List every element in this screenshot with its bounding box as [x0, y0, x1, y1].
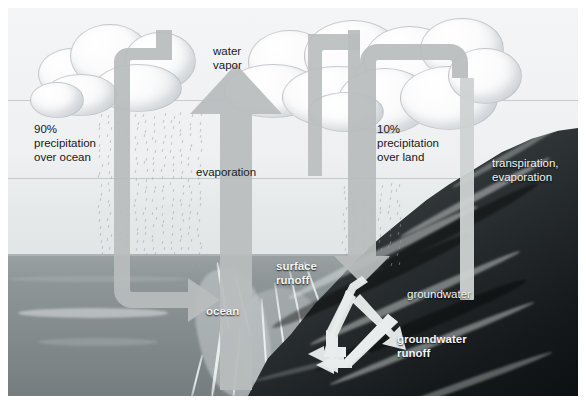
flow-arrow-layer	[8, 8, 578, 396]
label-evaporation: evaporation	[196, 165, 256, 179]
label-ocean: ocean	[206, 304, 239, 318]
diagram-canvas: water vapor 90% precipitation over ocean…	[8, 8, 578, 396]
label-precipitation-over-land: 10% precipitation over land	[377, 122, 439, 164]
label-groundwater-runoff: groundwater runoff	[397, 332, 467, 360]
water-cycle-diagram: water vapor 90% precipitation over ocean…	[0, 0, 586, 412]
label-precipitation-over-ocean: 90% precipitation over ocean	[34, 122, 96, 164]
evaporation-arrow	[190, 64, 282, 390]
label-groundwater: groundwater	[407, 287, 471, 301]
transpiration-evaporation-arrow	[460, 78, 474, 300]
label-surface-runoff: surface runoff	[276, 259, 317, 287]
label-water-vapor: water vapor	[213, 44, 242, 72]
label-transpiration-evaporation: transpiration, evaporation	[492, 156, 558, 184]
surface-runoff-line	[324, 290, 356, 357]
